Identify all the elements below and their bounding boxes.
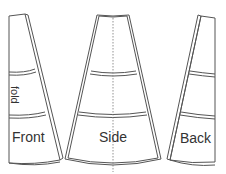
side-label: Side [99, 129, 127, 145]
side-piece: Side [65, 15, 161, 172]
back-piece: Back [167, 15, 215, 165]
fold-annotation: fold [9, 86, 21, 104]
back-label: Back [180, 130, 212, 146]
front-piece: fold Front [9, 14, 63, 165]
front-label: Front [12, 129, 45, 145]
pattern-diagram: fold Front Side Back [0, 0, 226, 174]
